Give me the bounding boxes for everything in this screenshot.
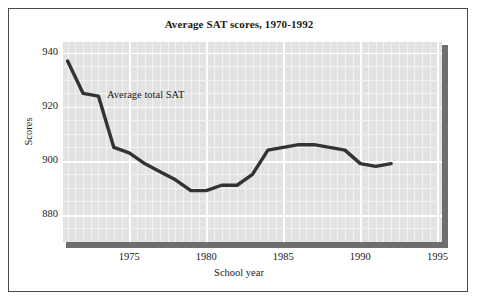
y-tick-label: 940 — [18, 46, 58, 57]
x-tick-label: 1975 — [104, 251, 154, 262]
plot-shadow-bottom — [66, 242, 448, 248]
plot-shadow-right — [442, 45, 448, 245]
x-tick-label: 1990 — [335, 251, 385, 262]
sat-scores-figure: Average SAT scores, 1970-1992 8809009209… — [0, 0, 478, 302]
average-total-sat-line — [68, 61, 392, 191]
chart-title: Average SAT scores, 1970-1992 — [0, 18, 478, 30]
y-tick-label: 880 — [18, 208, 58, 219]
x-tick-label: 1985 — [258, 251, 308, 262]
series-annotation: Average total SAT — [107, 89, 184, 100]
x-tick-label: 1995 — [412, 251, 462, 262]
x-axis-title: School year — [0, 267, 478, 278]
x-tick-label: 1980 — [181, 251, 231, 262]
line-series — [63, 42, 442, 242]
plot-area — [63, 42, 442, 242]
y-axis-title: Scores — [23, 92, 34, 172]
